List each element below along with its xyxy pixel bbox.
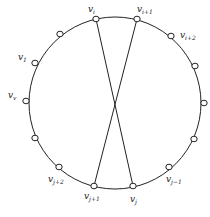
vertex-node-vj1	[91, 183, 97, 189]
vertex-label-vi1: vi+1	[137, 4, 153, 15]
cycle-diagram: vivi+1vi+2vj−1vjvj+1vj+2vvv1	[0, 0, 210, 217]
vertex-node-vj2	[56, 164, 62, 170]
vertex-node-vi2	[168, 33, 174, 39]
vertex-node-n11	[32, 135, 38, 141]
vertex-node-n14	[57, 31, 63, 37]
vertex-label-vj-1: vj−1	[166, 174, 182, 186]
edge-vi1-vj1	[94, 19, 137, 186]
vertex-node-vi	[93, 16, 99, 22]
vertex-label-vi2: vi+2	[180, 30, 196, 41]
vertex-node-vv	[23, 98, 29, 104]
vertex-node-vj	[130, 183, 136, 189]
vertex-node-vi1	[134, 16, 140, 22]
crossing-edges	[94, 19, 137, 186]
vertex-label-v1: v1	[18, 52, 27, 63]
vertex-node-v1	[32, 60, 38, 66]
vertex-node-vj-1	[166, 164, 172, 170]
edge-vi-vj	[96, 19, 133, 186]
vertex-node-n5	[201, 100, 207, 106]
vertex-node-n6	[191, 136, 197, 142]
vertex-label-vv: vv	[8, 90, 17, 101]
vertex-label-vj2: vj+2	[48, 174, 64, 186]
vertex-label-vi: vi	[88, 4, 95, 15]
vertex-label-vj1: vj+1	[84, 191, 100, 203]
vertex-label-vj: vj	[130, 194, 137, 206]
vertex-node-n4	[192, 63, 198, 69]
